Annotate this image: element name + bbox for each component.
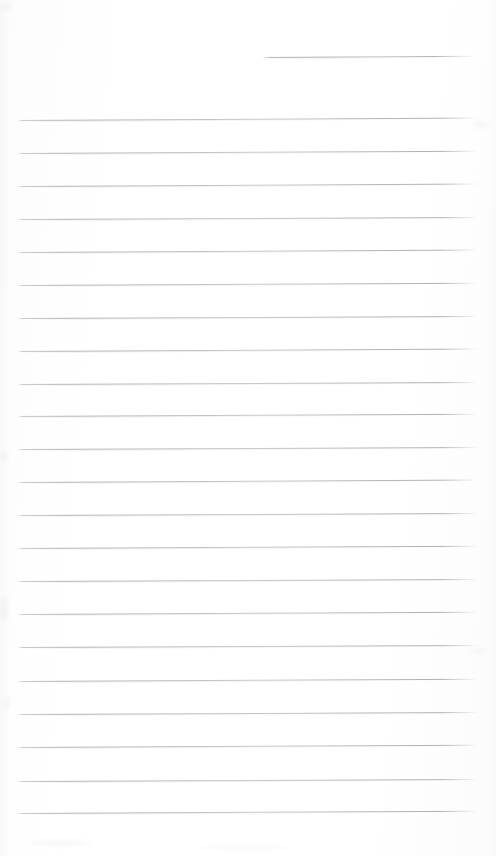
notepad-page <box>0 0 496 856</box>
writing-area[interactable] <box>0 0 496 856</box>
